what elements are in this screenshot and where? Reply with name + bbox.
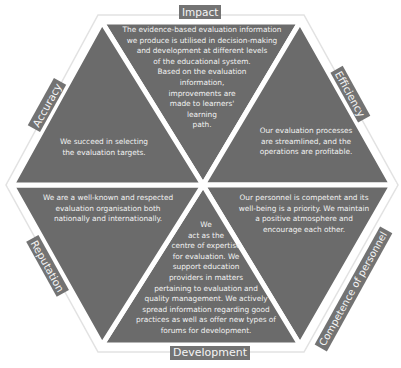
impact-text: The evidence-based evaluation informatio…: [104, 25, 300, 131]
label-development: Development: [170, 346, 250, 360]
reputation-text: We are a well-known and respected evalua…: [28, 193, 188, 225]
label-impact: Impact: [179, 5, 221, 19]
accuracy-text: We succeed in selecting the evaluation t…: [44, 137, 164, 158]
development-text: We act as the centre of expertise for ev…: [126, 220, 286, 337]
efficiency-text: Our evaluation processes are streamlined…: [246, 126, 366, 158]
hexagon-diagram: The evidence-based evaluation informatio…: [0, 0, 401, 368]
